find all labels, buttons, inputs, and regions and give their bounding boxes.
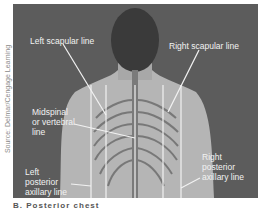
label-left-posterior-axillary-line: Left posterior axillary line — [25, 167, 67, 197]
label-midspinal-line: Midspinal or vertebral line — [32, 107, 75, 137]
posterior-torso-photo: Left scapular line Right scapular line M… — [13, 4, 258, 198]
label-right-posterior-axillary-line: Right posterior axillary line — [202, 152, 244, 182]
label-left-scapular-line: Left scapular line — [30, 36, 94, 46]
source-credit: Source: Delmar/Cengage Learning — [0, 0, 13, 198]
label-right-scapular-line: Right scapular line — [169, 41, 239, 51]
figure-caption: B. Posterior chest — [13, 201, 99, 209]
